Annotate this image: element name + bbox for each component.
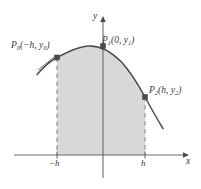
point-marker-p0 xyxy=(54,55,60,61)
x-tick-label-negative-h: −h xyxy=(49,159,60,168)
leader-line-p0 xyxy=(38,57,54,70)
x-axis-label: x xyxy=(186,157,190,167)
point-label-p0-coord-close: ) xyxy=(47,40,50,50)
x-tick-label-positive-h: h xyxy=(141,159,146,168)
point-label-p0-coords: (−h, y xyxy=(20,40,43,50)
point-label-p1-coord-close: ) xyxy=(131,35,134,45)
point-label-p2-coord-close: ) xyxy=(178,85,181,95)
shaded-region xyxy=(57,46,145,155)
point-label-p1-coords: (0, y xyxy=(111,35,128,45)
y-axis-label: y xyxy=(93,12,97,22)
point-label-p0: P0(−h, y0) xyxy=(11,41,50,51)
y-axis-arrowhead xyxy=(100,16,106,22)
point-label-p2: P2(h, y2) xyxy=(149,86,181,96)
point-label-p2-coords: (h, y xyxy=(158,85,175,95)
point-label-p1: P1(0, y1) xyxy=(102,36,134,46)
parabola-figure: P0(−h, y0) P1(0, y1) P2(h, y2) −h h x y xyxy=(0,0,201,189)
point-marker-p2 xyxy=(142,94,148,100)
